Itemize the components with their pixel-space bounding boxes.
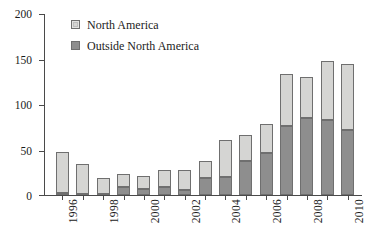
y-tick-label: 100	[15, 99, 32, 111]
x-tick-label: 2010	[353, 199, 365, 223]
bar-group	[158, 170, 171, 195]
bar-segment-outside-north-america	[260, 153, 273, 195]
y-tick-label: 50	[21, 145, 33, 157]
bar-group	[76, 164, 89, 195]
bar-segment-north-america	[280, 74, 293, 126]
bar-group	[178, 170, 191, 195]
bar-group	[219, 140, 232, 195]
y-axis-labels: 200 150 100 50 0	[0, 14, 40, 196]
x-axis-labels: 19961998200020022004200620082010	[44, 197, 362, 245]
bar-group	[300, 77, 313, 195]
bar-segment-outside-north-america	[158, 187, 171, 195]
dark-gray-swatch-icon	[71, 41, 80, 50]
bar-group	[199, 161, 212, 195]
bar-segment-outside-north-america	[117, 187, 130, 195]
legend-label: North America	[87, 19, 159, 31]
x-tick-label: 2008	[312, 199, 324, 223]
x-axis-line	[44, 195, 362, 196]
bar-segment-outside-north-america	[341, 130, 354, 195]
legend-item-outside-north-america: Outside North America	[71, 37, 199, 54]
bar-segment-north-america	[137, 176, 150, 189]
bar-segment-north-america	[56, 152, 69, 193]
bar-segment-north-america	[117, 174, 130, 187]
x-tick-label: 2004	[230, 199, 242, 223]
bar-group	[56, 152, 69, 195]
bar-group	[280, 74, 293, 195]
bar-segment-north-america	[97, 178, 110, 194]
bar-segment-north-america	[76, 164, 89, 194]
bar-group	[97, 178, 110, 195]
bar-segment-outside-north-america	[239, 161, 252, 195]
bar-group	[341, 64, 354, 195]
y-tick-label: 0	[26, 190, 32, 202]
bar-segment-north-america	[178, 170, 191, 190]
bar-segment-north-america	[158, 170, 171, 187]
bar-segment-north-america	[219, 140, 232, 177]
bar-segment-north-america	[321, 61, 334, 120]
y-tick-label: 150	[15, 54, 32, 66]
chart-legend: North America Outside North America	[71, 16, 199, 58]
chart-container: 200 150 100 50 0 19961998200020022004200…	[0, 0, 373, 250]
bar-segment-north-america	[260, 124, 273, 154]
y-tick-mark	[39, 195, 44, 196]
bar-segment-north-america	[341, 64, 354, 130]
bar-segment-outside-north-america	[219, 177, 232, 195]
bar-group	[117, 174, 130, 195]
bar-segment-outside-north-america	[321, 120, 334, 195]
x-tick-label: 2002	[190, 199, 202, 223]
bar-group	[321, 61, 334, 195]
x-tick-label: 2006	[271, 199, 283, 223]
bar-group	[239, 135, 252, 195]
bar-segment-outside-north-america	[300, 118, 313, 195]
y-tick-label: 200	[15, 8, 32, 20]
light-gray-swatch-icon	[71, 20, 80, 29]
x-tick-label: 1998	[108, 199, 120, 223]
bar-segment-outside-north-america	[199, 178, 212, 195]
bar-group	[137, 176, 150, 195]
bar-group	[260, 124, 273, 195]
legend-item-north-america: North America	[71, 16, 199, 33]
bar-segment-outside-north-america	[280, 126, 293, 195]
legend-label: Outside North America	[87, 40, 199, 52]
bar-segment-north-america	[199, 161, 212, 178]
bar-segment-north-america	[300, 77, 313, 118]
bar-segment-north-america	[239, 135, 252, 160]
x-tick-label: 2000	[149, 199, 161, 223]
x-tick-label: 1996	[67, 199, 79, 223]
